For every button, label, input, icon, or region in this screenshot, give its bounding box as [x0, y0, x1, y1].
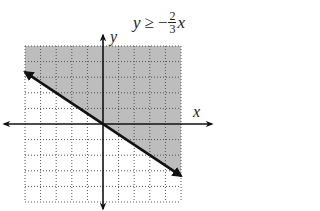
lhs-variable: y: [133, 13, 141, 33]
rhs-variable: x: [177, 13, 185, 33]
fraction: 2 3: [168, 10, 176, 35]
numerator: 2: [169, 10, 175, 22]
denominator: 3: [169, 23, 175, 35]
relation-symbol: ≥: [145, 13, 154, 33]
y-axis-label: y: [110, 28, 117, 46]
x-axis-label: x: [193, 103, 200, 121]
minus-sign: −: [158, 13, 168, 33]
inequality-label: y ≥ − 2 3 x: [133, 10, 185, 35]
